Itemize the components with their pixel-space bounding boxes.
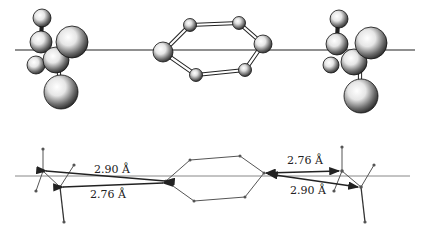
atom [239,64,252,77]
center-hexagon [164,155,265,203]
atom-node [72,163,75,166]
left-cluster-balls [27,9,88,109]
atom-node [62,220,65,223]
atom-node [262,171,265,174]
atom [56,26,88,58]
atom-node [340,145,343,148]
right-hbond-arrows: 2.76 Å 2.90 Å [266,153,358,197]
atom [330,10,348,28]
atom-node [244,196,247,199]
atom [190,69,203,82]
atom-node [372,163,375,166]
distance-label-right-upper: 2.76 Å [287,153,324,167]
atom [184,19,197,32]
distance-label-left-upper: 2.90 Å [94,162,131,176]
atom-node [58,185,62,189]
atom [254,35,272,53]
atom [33,9,51,27]
ring-outline [166,156,264,201]
hbond-arrow-right-upper [266,171,339,173]
distance-label-right-lower: 2.90 Å [290,183,327,197]
atom-node [193,200,196,203]
atom [355,27,387,59]
hbond-arrow-left-lower [63,183,163,187]
center-ring-balls [153,17,272,82]
atom-node [332,189,335,192]
atom [27,56,45,74]
line-drawing-view: 2.90 Å 2.76 Å 2.76 Å 2.90 Å [15,145,410,223]
atom [153,42,173,62]
distance-label-left-lower: 2.76 Å [90,187,127,201]
left-skeleton [34,147,75,223]
atom-node [189,159,192,162]
atom [326,33,348,55]
atom-node [41,169,45,173]
atom-node [239,155,242,158]
atom [323,57,339,73]
atom-node [363,220,366,223]
atom-node [340,169,344,173]
atom-node [41,147,44,150]
atom-node [359,185,363,189]
atom [344,79,378,113]
ball-and-stick-view [15,9,415,113]
atom [44,75,78,109]
atom [233,17,246,30]
molecular-figure: 2.90 Å 2.76 Å 2.76 Å 2.90 Å [0,0,424,240]
right-cluster-balls [323,10,387,113]
atom-node [34,189,37,192]
